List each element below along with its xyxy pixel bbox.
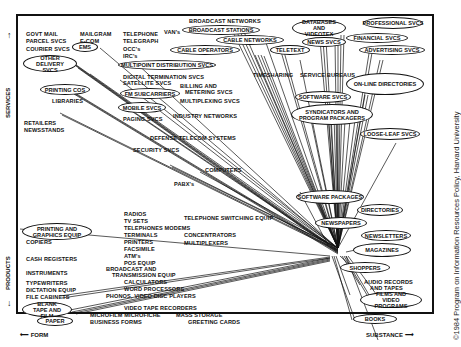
label-multiplexing-svcs: MULTIPLEXING SVCS [180,98,240,104]
oval-syndicators: SYNDICATORS AND PROGRAM PACKAGERS [291,104,373,125]
oval-printing-graphics: PRINTING AND GRAPHICS EQUIP [22,223,92,240]
substance-text: SUBSTANCE [366,332,403,338]
label-occs: OCC's [123,46,140,52]
oval-newsletters: NEWSLETTERS [361,230,411,241]
label-phono-video: PHONOS, VIDEO DISC PLAYERS [106,293,196,299]
label-microfilm: MICROFILM MICROFICHE [90,312,161,318]
label-terminals: TERMINALS [124,232,158,238]
label-business-forms: BUSINESS FORMS [90,319,142,325]
label-timesharing: TIMESHARING [253,72,293,78]
oval-professional-svcs: PROFESSIONAL SVCS [363,17,423,29]
arrow-up-icon: ↑ [7,30,12,40]
oval-printing-cos: PRINTING COS [40,84,90,95]
label-video-tape-recorders: VIDEO TAPE RECORDERS [124,305,197,311]
oval-magazines: MAGAZINES [353,243,411,257]
label-industry-networks: INDUSTRY NETWORKS [173,113,237,119]
oval-online-directories: ON-LINE DIRECTORIES [346,73,424,95]
oval-mobile-svcs: MOBILE SVCS [118,102,166,113]
label-facsimile: FACSIMILE [124,246,155,252]
label-retailers: RETAILERS [24,120,56,126]
oval-software-packages: SOFTWARE PACKAGES [296,190,364,204]
label-satellite-svcs: SATELLITE SVCS [123,80,171,86]
label-concentrators: CONCENTRATORS [184,232,236,238]
label-dictation-equip: DICTATION EQUIP [26,287,76,293]
label-ircs: IRC's [123,53,138,59]
label-paging-svcs: PAGING SVCS [123,116,163,122]
label-broadcast-networks: BROADCAST NETWORKS [189,18,261,24]
label-cash-registers: CASH REGISTERS [26,256,77,262]
oval-cable-networks: CABLE NETWORKS [216,35,284,45]
label-greeting-cards: GREETING CARDS [188,319,240,325]
label-telegraph: TELEGRAPH [123,38,158,44]
label-defense-telecom: DEFENSE TELECOM SYSTEMS [150,135,236,141]
label-mass-storage: MASS STORAGE [176,312,222,318]
label-calculators: CALCULATORS [124,279,167,285]
label-radios: RADIOS [124,211,146,217]
axis-services-label: SERVICES [5,88,11,118]
label-file-cabinets: FILE CABINETS [26,294,70,300]
label-billing-2: METERING SVCS [185,89,233,95]
label-service-bureaus: SERVICE BUREAUS [300,72,355,78]
label-govt-mail: GOVT MAIL [26,31,58,37]
oval-advertising-svcs: ADVERTISING SVCS [359,45,425,55]
label-newsstands: NEWSSTANDS [24,127,64,133]
label-mailgram: MAILGRAM [80,31,112,37]
label-libraries: LIBRARIES [52,98,83,104]
oval-blank-tape: BLANK TAPE AND FILM [22,302,72,317]
label-parcel-svcs: PARCEL SVCS [26,38,66,44]
oval-loose-leaf: LOOSE-LEAF SVCS [360,128,420,140]
oval-news-svcs: NEWS SVCS [302,37,346,47]
label-pabxs: PABX's [174,181,194,187]
label-telephone: TELEPHONE [123,31,158,37]
oval-books: BOOKS [353,314,397,324]
oval-cable-operators: CABLE OPERATORS [170,45,240,55]
axis-substance-label: SUBSTANCE ⟶ [366,331,414,338]
label-transmission-equip: TRANSMISSION EQUIP [112,272,176,278]
label-instruments: INSTRUMENTS [26,270,68,276]
copyright-notice: ©1984 Program on Information Resources P… [452,112,461,340]
oval-ems: EMS [72,42,98,52]
label-word-processors: WORD PROCESSORS [124,286,184,292]
label-computers: COMPUTERS [205,167,242,173]
oval-directories: DIRECTORIES [357,204,403,216]
arrow-down-icon: ↓ [7,298,12,308]
oval-software-svcs: SOFTWARE SVCS [295,91,351,103]
oval-shoppers: SHOPPERS [340,262,390,273]
oval-teletext: TELETEXT [270,45,310,55]
oval-databases: DATABASES AND VIDEOTEX [292,20,346,36]
label-printers: PRINTERS [124,239,153,245]
oval-multipoint: MULTIPOINT DISTRIBUTION SVCS [118,60,216,70]
oval-newspapers: NEWSPAPERS [315,217,367,229]
axis-form-label: ⟵ FORM [20,331,48,338]
label-security-svcs: SECURITY SVCS [133,147,179,153]
label-courier-svcs: COURIER SVCS [26,46,70,52]
label-multiplexers: MULTIPLEXERS [184,240,228,246]
oval-financial-svcs: FINANCIAL SVCS [346,33,408,43]
oval-other-delivery: OTHER DELIVERY SVCS [23,55,77,72]
label-telephone-switching: TELEPHONE SWITCHING EQUIP [184,215,273,221]
label-atms: ATM's [124,253,141,259]
label-vans: VAN's [164,29,180,35]
label-copiers: COPIERS [26,239,52,245]
label-typewriters: TYPEWRITERS [26,280,68,286]
oval-paper: PAPER [37,316,73,326]
oval-fm-subcarriers: FM SUBCARRIERS [120,88,180,99]
label-tv-sets: TV SETS [124,218,148,224]
oval-films-video: FILMS AND VIDEO PROGRAMS [360,292,422,308]
form-text: FORM [31,332,49,338]
label-telephones-modems: TELEPHONES MODEMS [124,225,190,231]
arrow-right-icon: ⟶ [403,332,414,338]
oval-broadcast-stations: BROADCAST STATIONS [182,25,260,35]
arrow-left-icon: ⟵ [20,332,31,338]
axis-products-label: PRODUCTS [5,256,11,290]
